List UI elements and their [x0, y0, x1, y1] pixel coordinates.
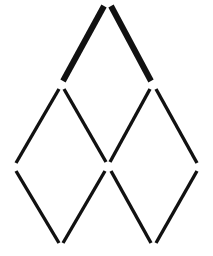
matchstick-figure-canvas [0, 0, 213, 256]
stick-upper-left-to-center [64, 89, 106, 162]
stick-apex-to-upper-right [111, 6, 151, 81]
stick-upper-left-to-left [16, 89, 59, 163]
stick-center-to-bottom-right [111, 171, 151, 243]
stick-apex-to-upper-left [63, 6, 104, 81]
stick-upper-right-to-right [156, 89, 197, 163]
stick-right-to-bottom-right [156, 171, 197, 243]
matchsticks-group [16, 6, 197, 243]
matchstick-figure-svg [0, 0, 213, 256]
stick-upper-right-to-center [110, 89, 150, 162]
stick-left-to-bottom-left [16, 171, 59, 243]
stick-center-to-bottom-left [63, 171, 105, 243]
